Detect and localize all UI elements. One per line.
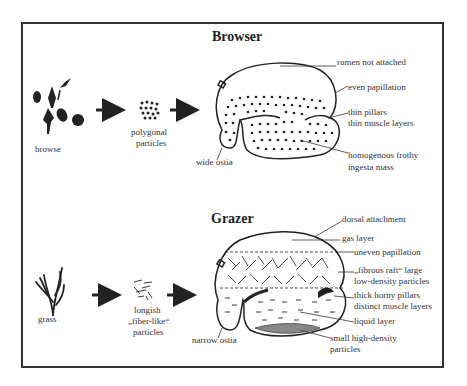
polygonal-label: polygonal (131, 127, 167, 137)
label-small-particles-1: small high-density (330, 333, 397, 343)
polygonal-particles-icon (140, 101, 160, 120)
label-dorsal-attachment: dorsal attachment (342, 214, 406, 224)
fiber-like-label: „fiber-like“ (128, 316, 169, 326)
browser-rumen-icon (216, 63, 339, 159)
longish-label: longish (134, 305, 161, 315)
browse-label: browse (35, 144, 61, 154)
label-wide-ostia: wide ostia (196, 157, 233, 167)
label-thick-pillars-1: thick horny pillars (354, 290, 420, 300)
browser-title: Browser (212, 29, 262, 44)
label-uneven-papillation: uneven papillation (354, 247, 421, 257)
particles-label: particles (136, 138, 167, 148)
grazer-title: Grazer (211, 211, 254, 226)
thick-pillar-icon (318, 288, 334, 299)
rumen-diagram: Browser browse polygonal particles (0, 0, 467, 386)
pillar-icon (244, 290, 268, 302)
label-gas-layer: gas layer (342, 233, 374, 243)
grass-icon (36, 268, 64, 315)
fibrous-raft-hatching (220, 252, 345, 288)
sediment-particles (255, 324, 320, 334)
label-homogenous-1: homogenous frothy (348, 150, 419, 160)
label-fibrous-raft-2: low-density particles (354, 276, 430, 286)
grazer-rumen-icon (215, 232, 345, 336)
browse-leaves-icon (33, 78, 84, 134)
label-liquid-layer: liquid layer (354, 316, 395, 326)
label-rumen-not-attached: rumen not attached (337, 57, 406, 67)
browser-leader-lines (217, 66, 348, 160)
label-thick-pillars-2: distinct muscle layers (354, 301, 432, 311)
label-thin-muscle-layers: thin muscle layers (348, 118, 414, 128)
label-homogenous-2: ingesta mass (348, 162, 394, 172)
fiber-particles-icon (134, 280, 152, 300)
grass-label: grass (38, 314, 57, 324)
label-small-particles-2: particles (330, 344, 361, 354)
label-thin-pillars: thin pillars (348, 107, 387, 117)
label-fibrous-raft-1: „fibrous raft“ large (354, 265, 422, 275)
particles-label: particles (133, 327, 164, 337)
label-narrow-ostia: narrow ostia (192, 335, 237, 345)
label-even-papillation: even papillation (348, 82, 406, 92)
